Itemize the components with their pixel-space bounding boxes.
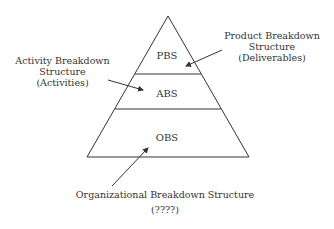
annotation-organizational-line1: Organizational Breakdown Structure <box>70 189 260 200</box>
annotation-organizational-line2: (????) <box>70 204 260 215</box>
pyramid-diagram: PBS ABS OBS Product Breakdown Structure … <box>0 0 334 229</box>
annotation-product-line3: (Deliverables) <box>222 52 322 63</box>
annotation-activity: Activity Breakdown Structure (Activities… <box>15 55 110 88</box>
layer-obs: OBS <box>147 132 187 143</box>
layer-pbs: PBS <box>147 50 187 61</box>
annotation-activity-line3: (Activities) <box>15 77 110 88</box>
arrow-activity <box>108 80 143 90</box>
arrow-organizational <box>112 148 148 186</box>
annotation-activity-line2: Structure <box>15 66 110 77</box>
annotation-product-line2: Structure <box>222 41 322 52</box>
annotation-organizational: Organizational Breakdown Structure (????… <box>70 189 260 215</box>
layer-abs: ABS <box>147 88 187 99</box>
annotation-product-line1: Product Breakdown <box>222 30 322 41</box>
arrow-product <box>186 50 222 66</box>
annotation-activity-line1: Activity Breakdown <box>15 55 110 66</box>
annotation-product: Product Breakdown Structure (Deliverable… <box>222 30 322 63</box>
